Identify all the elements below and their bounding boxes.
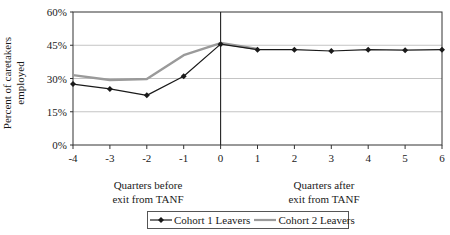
- x-group-after-line-1: Quarters after: [264, 178, 384, 192]
- y-tick-label: 30%: [47, 73, 67, 85]
- data-point-diamond-icon: [70, 81, 76, 87]
- x-tick-label: 6: [439, 152, 445, 164]
- data-point-diamond-icon: [439, 47, 445, 53]
- data-point-diamond-icon: [144, 92, 150, 98]
- x-tick-label: 4: [365, 152, 371, 164]
- x-tick-label: -2: [142, 152, 151, 164]
- x-tick-label: 2: [292, 152, 298, 164]
- y-axis-title: Percent of caretakers employed: [1, 23, 31, 143]
- series-line-cohort-2-leavers: [73, 43, 258, 80]
- data-point-diamond-icon: [107, 86, 113, 92]
- data-point-diamond-icon: [291, 47, 297, 53]
- data-point-diamond-icon: [328, 48, 334, 54]
- x-axis-group-after: Quarters after exit from TANF: [264, 178, 384, 206]
- x-tick-label: 0: [218, 152, 224, 164]
- x-tick-label: -1: [179, 152, 188, 164]
- legend-swatch-black-diamond-icon: [150, 215, 172, 225]
- y-tick-label: 15%: [47, 106, 67, 118]
- legend-item-cohort-2: Cohort 2 Leavers: [254, 214, 354, 226]
- x-group-before-line-1: Quarters before: [88, 178, 208, 192]
- x-axis-group-before: Quarters before exit from TANF: [88, 178, 208, 206]
- legend-swatch-gray-line-icon: [254, 215, 276, 225]
- x-group-after-line-2: exit from TANF: [264, 192, 384, 206]
- legend-item-cohort-1: Cohort 1 Leavers: [150, 214, 250, 226]
- data-point-diamond-icon: [402, 47, 408, 53]
- y-tick-label: 0%: [52, 139, 67, 151]
- y-axis-title-line-1: Percent of caretakers: [1, 23, 14, 143]
- chart-container: 0%15%30%45%60%-4-3-2-10123456 Percent of…: [0, 0, 450, 235]
- x-group-before-line-2: exit from TANF: [88, 192, 208, 206]
- data-point-diamond-icon: [365, 47, 371, 53]
- y-tick-label: 45%: [47, 39, 67, 51]
- x-tick-label: 1: [255, 152, 261, 164]
- chart-legend: Cohort 1 Leavers Cohort 2 Leavers: [147, 211, 349, 229]
- x-tick-label: 3: [329, 152, 335, 164]
- legend-label-cohort-2: Cohort 2 Leavers: [278, 214, 354, 226]
- legend-label-cohort-1: Cohort 1 Leavers: [174, 214, 250, 226]
- x-tick-label: -3: [105, 152, 115, 164]
- y-axis-title-line-2: employed: [14, 23, 27, 143]
- y-tick-label: 60%: [47, 6, 67, 18]
- x-tick-label: 5: [402, 152, 408, 164]
- x-tick-label: -4: [68, 152, 78, 164]
